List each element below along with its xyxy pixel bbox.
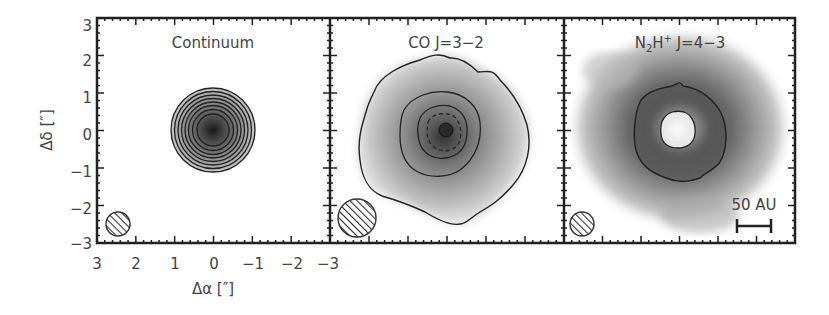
x-tick-label: 3 [92, 255, 102, 273]
y-axis-label: Δδ [″] [38, 109, 56, 151]
x-axis-label: Δα [″] [192, 280, 234, 298]
x-tick-label: −2 [281, 255, 303, 273]
x-tick-label: 0 [209, 255, 219, 273]
y-tick-label: −3 [70, 235, 92, 253]
x-tick-label: −3 [317, 255, 339, 273]
x-tick-label: 2 [131, 255, 141, 273]
y-tick-label: 2 [82, 52, 92, 70]
y-tick-label: −1 [70, 163, 92, 181]
panel-co [338, 54, 531, 237]
x-axis: 3 2 1 0 −1 −2 −3 Δα [″] [92, 255, 339, 298]
y-tick-label: 1 [82, 89, 92, 107]
y-tick-label: 0 [82, 126, 92, 144]
y-tick-label: −2 [70, 200, 92, 218]
scale-bar-label: 50 AU [731, 196, 776, 214]
x-tick-label: 1 [170, 255, 180, 273]
panel-title-continuum: Continuum [172, 34, 254, 52]
beam-icon [338, 199, 376, 237]
panel-continuum [106, 88, 255, 236]
y-axis: 3 2 1 0 −1 −2 −3 Δδ [″] [38, 17, 92, 253]
co-peak [439, 123, 453, 137]
beam-icon [106, 212, 130, 236]
figure: Continuum CO J=3−2 N2H+ J=4−3 50 AU [0, 0, 829, 315]
beam-icon [570, 212, 594, 236]
co-emission [357, 54, 531, 225]
panel-title-co: CO J=3−2 [408, 34, 484, 52]
y-tick-label: 3 [82, 17, 92, 35]
scale-bar [737, 219, 771, 233]
x-tick-label: −1 [242, 255, 264, 273]
